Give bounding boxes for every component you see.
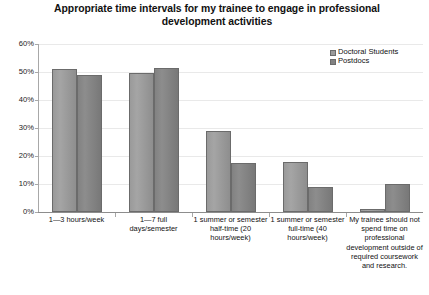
bar bbox=[231, 163, 256, 212]
legend-label: Postdocs bbox=[338, 57, 369, 66]
y-tick-mark bbox=[35, 212, 38, 213]
chart-title: Appropriate time intervals for my traine… bbox=[22, 3, 412, 28]
legend-swatch-icon bbox=[330, 59, 336, 65]
y-axis-tick-label: 60% bbox=[2, 40, 34, 48]
bar bbox=[77, 75, 102, 212]
bar bbox=[385, 184, 410, 212]
x-axis-line bbox=[38, 212, 423, 213]
bar bbox=[154, 68, 179, 212]
legend-swatch-icon bbox=[330, 50, 336, 56]
bar bbox=[283, 162, 308, 212]
gridline bbox=[38, 44, 423, 45]
y-axis-tick-label: 50% bbox=[2, 68, 34, 76]
y-axis-tick-label: 30% bbox=[2, 124, 34, 132]
x-axis-category-label: 1 summer or semester half-time (20 hours… bbox=[192, 215, 269, 243]
x-axis-category-label: 1—7 full days/semester bbox=[115, 215, 192, 233]
y-axis-tick-label: 40% bbox=[2, 96, 34, 104]
y-axis-line bbox=[38, 44, 39, 212]
y-tick-mark bbox=[35, 184, 38, 185]
legend-item: Postdocs bbox=[330, 57, 426, 66]
y-tick-mark bbox=[35, 156, 38, 157]
bar bbox=[360, 209, 385, 212]
bar bbox=[308, 187, 333, 212]
x-axis-category-label: My trainee should not spend time on prof… bbox=[346, 215, 423, 270]
y-tick-mark bbox=[35, 128, 38, 129]
bar-chart: Appropriate time intervals for my traine… bbox=[0, 0, 429, 295]
chart-legend: Doctoral StudentsPostdocs bbox=[330, 48, 426, 65]
y-axis-tick-label: 20% bbox=[2, 152, 34, 160]
x-axis-category-label: 1 summer or semester full-time (40 hours… bbox=[269, 215, 346, 243]
plot-area bbox=[38, 44, 423, 212]
x-axis-category-label: 1—3 hours/week bbox=[38, 215, 115, 224]
y-axis-tick-label: 0% bbox=[2, 208, 34, 216]
y-tick-mark bbox=[35, 44, 38, 45]
bar bbox=[206, 131, 231, 212]
y-axis-tick-label: 10% bbox=[2, 180, 34, 188]
y-tick-mark bbox=[35, 100, 38, 101]
gridline bbox=[38, 72, 423, 73]
bar bbox=[52, 69, 77, 212]
bar bbox=[129, 73, 154, 212]
y-tick-mark bbox=[35, 72, 38, 73]
